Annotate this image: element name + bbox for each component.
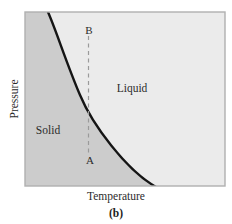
phase-diagram-plot: Solid Liquid B A Pressure Temperature (b… <box>0 0 232 224</box>
point-b-label: B <box>85 24 92 36</box>
figure-caption: (b) <box>109 207 123 220</box>
point-a-label: A <box>86 154 94 166</box>
phase-diagram-figure: Solid Liquid B A Pressure Temperature (b… <box>0 0 232 224</box>
y-axis-label: Pressure <box>8 80 20 119</box>
solid-region-label: Solid <box>36 124 61 136</box>
x-axis-label: Temperature <box>87 190 145 203</box>
liquid-region-label: Liquid <box>117 82 148 95</box>
